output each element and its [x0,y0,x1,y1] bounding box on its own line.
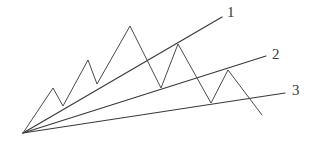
trendline-1-label: 1 [227,4,235,20]
diagram-canvas: 1 2 3 [0,0,318,145]
trendline-3-label: 3 [292,82,300,98]
figure-background [0,0,318,145]
expanding-wedge-figure: 1 2 3 [0,0,318,145]
trendline-2-label: 2 [272,46,280,62]
